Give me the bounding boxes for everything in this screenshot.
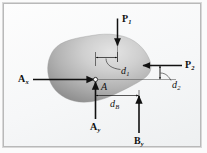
label-point-a: A xyxy=(101,82,107,92)
label-p2: P2 xyxy=(185,60,195,71)
label-by: By xyxy=(134,136,144,147)
rigid-body-shape xyxy=(48,34,151,102)
label-p1: P1 xyxy=(122,14,132,25)
free-body-diagram-figure: P1 P2 Ax Ay By A d1 d2 dB xyxy=(0,0,207,153)
dimension-d2 xyxy=(160,66,171,81)
label-d1: d1 xyxy=(121,66,129,77)
label-db: dB xyxy=(110,99,119,110)
label-ax: Ax xyxy=(18,74,29,85)
point-a-marker xyxy=(93,77,97,81)
label-d2: d2 xyxy=(172,80,180,91)
diagram-canvas xyxy=(0,0,207,153)
label-ay: Ay xyxy=(90,122,100,133)
